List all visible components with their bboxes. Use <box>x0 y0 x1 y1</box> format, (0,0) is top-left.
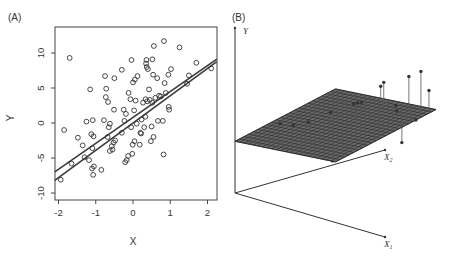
scatter-point <box>119 67 124 72</box>
scatter-point <box>137 142 142 147</box>
x-tick-label: 2 <box>205 207 210 218</box>
scatter-point <box>90 118 95 123</box>
scatter-point <box>143 114 148 119</box>
observation-point <box>427 89 430 92</box>
scatter-point <box>169 67 174 72</box>
y-tick-label: -5 <box>35 154 46 162</box>
scatter-point <box>58 177 63 182</box>
x-axis-ticks: -2-1012 <box>54 200 210 218</box>
observation-point <box>356 101 359 104</box>
scatter-point <box>177 45 182 50</box>
scatter-point <box>151 72 156 77</box>
panel-b-label: (B) <box>232 12 245 23</box>
scatter-point <box>103 95 108 100</box>
y-axis-label: Y <box>5 114 16 121</box>
regression-plane <box>235 89 436 162</box>
scatter-point <box>91 172 96 177</box>
scatter-point <box>112 107 117 112</box>
observation-point <box>400 141 403 144</box>
observation-point <box>419 70 422 73</box>
x-tick-label: -2 <box>54 207 62 218</box>
scatter-point <box>147 87 152 92</box>
x1-axis-3d-label: X1 <box>383 239 393 250</box>
scatter-point <box>102 118 107 123</box>
scatter-point <box>67 56 72 61</box>
scatter-point <box>88 87 93 92</box>
scatter-point <box>134 121 139 126</box>
scatter-point <box>104 86 109 91</box>
observation-point <box>352 102 355 105</box>
scatter-point <box>80 143 85 148</box>
scatter-point <box>128 97 133 102</box>
scatter-point <box>194 60 199 65</box>
scatter-point <box>151 135 156 140</box>
x-tick-label: 0 <box>130 207 135 218</box>
scatter-point <box>129 125 134 130</box>
x1-axis-end <box>384 236 386 238</box>
scatter-point <box>209 66 214 71</box>
observation-point <box>279 122 282 125</box>
x1-axis-3d <box>235 193 385 237</box>
observation-point <box>414 118 417 121</box>
observation-point <box>394 104 397 107</box>
scatter-point <box>162 39 167 44</box>
panel-a: (A) -2-1012 -10-50510 X Y <box>5 12 217 247</box>
scatter-point <box>156 119 161 124</box>
scatter-point <box>75 135 80 140</box>
scatter-point <box>112 76 117 81</box>
x-tick-label: 1 <box>168 207 173 218</box>
scatter-point <box>161 152 166 157</box>
observation-point <box>307 121 310 124</box>
scatter-point <box>151 44 156 49</box>
y-tick-label: -10 <box>35 186 46 200</box>
panel-b: (B) Y X2 X1 <box>232 12 436 250</box>
scatter-point <box>106 100 111 105</box>
panel-a-label: (A) <box>8 12 21 23</box>
observation-point <box>292 124 295 127</box>
scatter-point <box>103 74 108 79</box>
y-tick-label: 10 <box>35 48 46 59</box>
observation-point <box>379 84 382 87</box>
scatter-point <box>166 72 171 77</box>
observation-point <box>395 109 398 112</box>
plot-a-frame <box>55 27 217 200</box>
scatter-point <box>99 168 104 173</box>
scatter-point <box>69 161 74 166</box>
scatter-point <box>160 119 165 124</box>
x-tick-label: -1 <box>92 207 100 218</box>
scatter-point <box>155 76 160 81</box>
y-tick-label: 5 <box>35 85 46 90</box>
figure: (A) -2-1012 -10-50510 X Y (B) Y X2 X1 <box>0 0 450 258</box>
scatter-point <box>144 58 149 63</box>
scatter-point <box>126 91 131 96</box>
scatter-point <box>87 158 92 163</box>
population-regression-line <box>55 59 217 172</box>
observation-point <box>407 75 410 78</box>
scatter-point <box>133 98 138 103</box>
observation-point <box>329 111 332 114</box>
y-tick-label: 0 <box>35 120 46 125</box>
scatter-point <box>142 125 147 130</box>
scatter-point <box>149 124 154 129</box>
scatter-point <box>162 81 167 86</box>
least-squares-line <box>55 62 217 181</box>
scatter-point <box>84 119 89 124</box>
scatter-point <box>130 151 135 156</box>
scatter-point <box>124 112 129 117</box>
scatter-point <box>186 73 191 78</box>
y-axis-3d-label: Y <box>243 26 249 36</box>
y-axis-end <box>234 27 236 29</box>
scatter-point <box>132 108 137 113</box>
observation-point <box>360 101 363 104</box>
scatter-point <box>135 74 140 79</box>
y-axis-ticks: -10-50510 <box>35 48 55 200</box>
scatter-point <box>62 128 67 133</box>
scatter-point <box>150 57 155 62</box>
scatter-point <box>129 58 134 63</box>
x-axis-label: X <box>130 236 137 247</box>
observation-point <box>382 81 385 84</box>
x2-axis-end <box>384 149 386 151</box>
x2-axis-3d-label: X2 <box>383 152 393 163</box>
